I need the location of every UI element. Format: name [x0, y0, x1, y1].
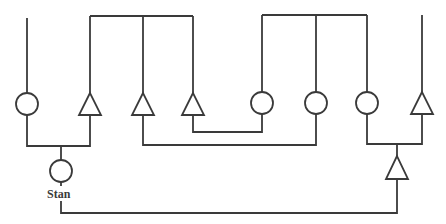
sibling-bar-right: [262, 15, 367, 92]
child-right-icon: [386, 156, 408, 179]
female-g1-icon: [16, 93, 38, 115]
stan-icon: [50, 160, 72, 182]
male-g8-icon: [411, 92, 433, 114]
couple-g1-g2: [27, 115, 90, 160]
pedigree-diagram: Stan: [0, 0, 446, 224]
female-g7-icon: [356, 92, 378, 114]
sibling-bar-left: [90, 16, 193, 93]
couple-stan-right: [61, 179, 397, 213]
couple-g3-g6: [143, 114, 316, 145]
female-g5-icon: [251, 92, 273, 114]
couple-g4-g5: [193, 114, 262, 132]
male-g4-icon: [182, 93, 204, 115]
female-g6-icon: [305, 92, 327, 114]
male-g2-icon: [79, 93, 101, 115]
male-g3-icon: [132, 93, 154, 115]
couple-g7-g8: [367, 114, 422, 156]
stan-label: Stan: [47, 187, 71, 201]
